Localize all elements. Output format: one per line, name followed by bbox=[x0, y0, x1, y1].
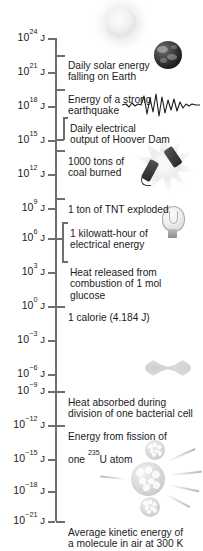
tick-mark bbox=[48, 374, 55, 376]
leader-line-fission bbox=[56, 425, 65, 427]
tick-label-1e15: 1015J bbox=[18, 134, 45, 145]
tick-label-1e-6: 10−6J bbox=[17, 368, 45, 379]
leader-line-hoover-riser bbox=[63, 117, 65, 140]
tick-mark bbox=[48, 425, 55, 427]
leader-line-tnt bbox=[56, 198, 65, 200]
tick-mark bbox=[48, 306, 55, 308]
leader-line-kwh bbox=[62, 222, 68, 224]
tick-label-1e-9: 10−9J bbox=[17, 385, 45, 396]
leader-line-solar bbox=[56, 55, 65, 57]
leader-line-coal bbox=[56, 150, 65, 152]
tick-mark bbox=[48, 340, 55, 342]
tick-label-1e21: 1021J bbox=[18, 66, 45, 77]
callout-kinetic-energy: Average kinetic energy ofa molecule in a… bbox=[68, 515, 203, 551]
tick-mark bbox=[48, 174, 55, 176]
leader-line-glucose bbox=[62, 261, 68, 263]
tick-mark bbox=[48, 208, 55, 210]
tick-mark bbox=[48, 391, 55, 393]
callout-coal-burned: 1000 tons ofcoal burned bbox=[68, 144, 158, 190]
fission-ray bbox=[169, 484, 200, 493]
leader-line-brace-spine bbox=[62, 222, 64, 262]
tick-label-1e6: 106J bbox=[22, 232, 45, 243]
tick-label-1e-21: 10−21J bbox=[13, 515, 45, 526]
tick-label-1e-15: 10−15J bbox=[13, 453, 45, 464]
tick-mark bbox=[48, 140, 55, 142]
callout-calorie: 1 calorie (4.184 J) bbox=[68, 300, 193, 335]
callout-uranium-fission-line2: one 235U atom bbox=[68, 454, 198, 466]
tick-label-1e18: 1018J bbox=[18, 100, 45, 111]
tick-mark bbox=[48, 72, 55, 74]
dividing-cell-illustration bbox=[145, 358, 191, 378]
callout-uranium-fission: Energy from fission of one 235U atom bbox=[68, 419, 198, 477]
leader-line-earthquake bbox=[56, 89, 65, 91]
tick-label-1e-18: 10−18J bbox=[13, 485, 45, 496]
leader-line-hoover-upper bbox=[63, 117, 68, 119]
tick-label-1e-3: 10−3J bbox=[17, 334, 45, 345]
leader-line-calorie bbox=[56, 306, 65, 308]
tick-label-1e3: 103J bbox=[22, 266, 45, 277]
tick-mark bbox=[48, 238, 55, 240]
tick-mark bbox=[48, 491, 55, 493]
tick-mark bbox=[48, 459, 55, 461]
tick-mark bbox=[48, 38, 55, 40]
tick-label-1e-12: 10−12J bbox=[13, 419, 45, 430]
tick-mark bbox=[48, 106, 55, 108]
tick-mark bbox=[48, 272, 55, 274]
leader-line-kinetic bbox=[56, 521, 65, 523]
tick-label-1e0: 100J bbox=[22, 300, 45, 311]
leader-line-bacteria bbox=[56, 391, 65, 393]
tick-label-1e12: 1012J bbox=[18, 168, 45, 179]
tick-label-1e9: 109J bbox=[22, 202, 45, 213]
sun-illustration bbox=[106, 8, 137, 39]
fission-ray bbox=[164, 493, 190, 508]
fission-fragment-lower bbox=[140, 497, 160, 517]
tick-label-1e24: 1024J bbox=[18, 32, 45, 43]
tick-mark bbox=[48, 521, 55, 523]
energy-axis-line bbox=[55, 38, 57, 521]
